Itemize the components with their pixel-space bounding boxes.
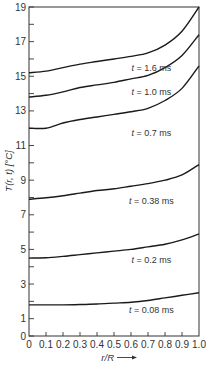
temperature-curve bbox=[29, 66, 199, 129]
temperature-curve bbox=[29, 35, 199, 97]
x-axis-label: r/R bbox=[101, 352, 114, 363]
x-tick-label: 0.9 bbox=[175, 339, 189, 350]
plot-frame bbox=[29, 7, 199, 336]
x-tick-label: 0.7 bbox=[141, 339, 155, 350]
y-tick-label: 7 bbox=[20, 209, 26, 220]
x-tick-label: 0.3 bbox=[73, 339, 87, 350]
x-tick-label: 0.4 bbox=[90, 339, 104, 350]
curve-label: t = 1.0 ms bbox=[132, 87, 172, 97]
y-axis-label: T(r, t) [°C] bbox=[3, 150, 14, 192]
curve-label: t = 1.6 ms bbox=[132, 63, 172, 73]
temperature-curves bbox=[29, 7, 199, 305]
curve-labels: t = 1.6 mst = 1.0 mst = 0.7 mst = 0.38 m… bbox=[129, 63, 174, 315]
temperature-curve bbox=[29, 165, 199, 200]
y-tick-label: 3 bbox=[20, 279, 26, 290]
curve-label: t = 0.38 ms bbox=[129, 196, 174, 206]
y-tick-label: 9 bbox=[20, 175, 26, 186]
curve-label: t = 0.08 ms bbox=[129, 305, 174, 315]
temperature-curve bbox=[29, 234, 199, 258]
y-tick-label: 13 bbox=[15, 105, 27, 116]
temperature-curve bbox=[29, 293, 199, 305]
x-tick-label: 0.6 bbox=[124, 339, 138, 350]
x-axis-ticks: 00.10.20.30.40.50.60.70.80.91.0 bbox=[26, 332, 206, 350]
y-tick-label: 19 bbox=[15, 2, 27, 13]
curve-label: t = 0.7 ms bbox=[132, 128, 172, 138]
y-tick-label: 15 bbox=[15, 71, 27, 82]
y-tick-label: 17 bbox=[15, 36, 27, 47]
x-tick-label: 0.2 bbox=[56, 339, 70, 350]
y-axis-ticks: 0135791113151719 bbox=[15, 2, 34, 342]
x-tick-label: 0.8 bbox=[158, 339, 172, 350]
y-tick-label: 5 bbox=[20, 244, 26, 255]
y-tick-label: 1 bbox=[20, 313, 26, 324]
temperature-profile-chart: 0135791113151719 00.10.20.30.40.50.60.70… bbox=[0, 0, 209, 366]
plot-axes bbox=[29, 7, 199, 336]
x-axis-title: r/R bbox=[101, 352, 137, 363]
arrow-right-icon bbox=[117, 356, 137, 360]
x-tick-label: 0 bbox=[26, 339, 32, 350]
x-tick-label: 0.1 bbox=[39, 339, 53, 350]
curve-label: t = 0.2 ms bbox=[132, 255, 172, 265]
y-tick-label: 11 bbox=[16, 140, 27, 151]
x-tick-label: 0.5 bbox=[107, 339, 121, 350]
x-tick-label: 1.0 bbox=[192, 339, 206, 350]
